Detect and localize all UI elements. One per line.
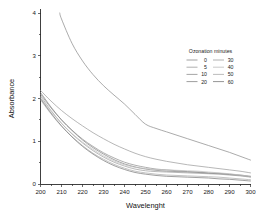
legend-label-50: 50: [228, 71, 234, 77]
series-line-0: [60, 13, 251, 160]
x-axis-ticks: 200210220230240250260270280290300: [35, 184, 256, 195]
legend-label-30: 30: [228, 57, 234, 63]
legend-label-10: 10: [201, 71, 207, 77]
series-line-10: [41, 94, 251, 176]
y-tick-label: 3: [33, 52, 37, 59]
legend-label-60: 60: [228, 79, 234, 85]
chart-figure: 01234 200210220230240250260270280290300 …: [0, 0, 259, 224]
y-axis-title: Absorbance: [7, 79, 16, 118]
data-series-group: [41, 13, 251, 181]
legend-title: Ozonation minutes: [189, 48, 233, 54]
x-tick-label: 290: [224, 188, 235, 195]
y-tick-label: 1: [33, 137, 37, 144]
chart-legend: Ozonation minutes 05102030405060: [187, 48, 234, 85]
y-axis-ticks: 01234: [33, 9, 41, 187]
y-tick-label: 4: [33, 9, 37, 16]
x-tick-label: 270: [182, 188, 193, 195]
plot-axes: [41, 9, 251, 184]
x-tick-label: 240: [119, 188, 130, 195]
x-tick-label: 250: [140, 188, 151, 195]
x-tick-label: 200: [35, 188, 46, 195]
y-tick-label: 2: [33, 95, 37, 102]
legend-label-0: 0: [204, 57, 207, 63]
series-line-5: [41, 90, 251, 173]
legend-label-20: 20: [201, 79, 207, 85]
y-tick-label: 0: [33, 180, 37, 187]
absorbance-line-chart: 01234 200210220230240250260270280290300 …: [0, 0, 259, 224]
legend-items: 05102030405060: [187, 57, 234, 85]
series-line-20: [41, 93, 251, 177]
x-tick-label: 210: [56, 188, 67, 195]
legend-label-40: 40: [228, 64, 234, 70]
x-tick-label: 260: [161, 188, 172, 195]
x-tick-label: 230: [98, 188, 109, 195]
x-tick-label: 220: [77, 188, 88, 195]
x-tick-label: 300: [245, 188, 256, 195]
legend-label-5: 5: [204, 64, 207, 70]
x-tick-label: 280: [203, 188, 214, 195]
x-axis-title: Wavelenght: [126, 201, 165, 210]
series-line-50: [41, 100, 251, 180]
